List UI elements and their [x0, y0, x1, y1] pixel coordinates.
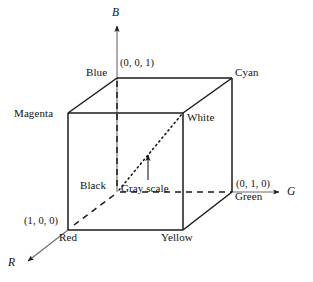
cube-edges — [68, 78, 232, 230]
vertex-label-yellow: Yellow — [161, 231, 193, 243]
rgb-color-cube-figure: B G R Blue Cyan Magenta White Black Gree… — [0, 0, 313, 282]
vertex-label-green: Green — [235, 190, 262, 202]
coordinate-label-red: (1, 0, 0) — [24, 215, 58, 227]
hidden-edges — [70, 80, 232, 228]
edge-black-red — [70, 195, 114, 228]
edge-yellow-green — [183, 192, 232, 230]
vertex-label-white: White — [187, 111, 214, 123]
vertex-label-black: Black — [80, 179, 106, 191]
gray-scale-line — [119, 114, 182, 190]
edge-cyan-white — [183, 78, 232, 113]
vertex-label-magenta: Magenta — [14, 107, 53, 119]
coordinate-label-green: (0, 1, 0) — [236, 178, 270, 190]
green-axis-label: G — [287, 185, 295, 197]
gray-scale-label: Gray scale — [121, 182, 169, 194]
edge-magenta-blue — [68, 78, 117, 113]
blue-axis-label: B — [112, 6, 119, 18]
vertex-label-red: Red — [59, 231, 77, 243]
vertex-label-cyan: Cyan — [235, 66, 259, 78]
vertex-label-blue: Blue — [86, 66, 107, 78]
red-axis-label: R — [8, 256, 15, 268]
coordinate-label-blue: (0, 0, 1) — [120, 57, 154, 69]
cube-drawing — [0, 0, 313, 282]
gray-scale-diagonal — [119, 114, 182, 190]
